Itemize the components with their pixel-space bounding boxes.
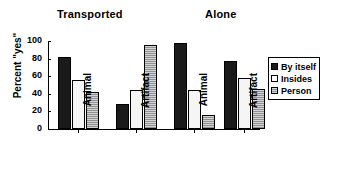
bar-1-0 — [116, 104, 129, 129]
legend-label-0: By itself — [281, 62, 316, 72]
legend-item-1: Insides — [271, 73, 316, 84]
x-axis-line — [48, 129, 260, 130]
bar-0-0 — [58, 57, 71, 129]
x-category-label-2: Animal — [198, 73, 209, 133]
plot-area: 020406080100 — [48, 41, 260, 129]
legend-swatch-icon-1 — [271, 75, 278, 82]
y-tick-mark — [48, 76, 51, 77]
y-tick-label: 80 — [32, 53, 42, 64]
x-tick-mark-3 — [244, 129, 245, 133]
y-tick-label: 40 — [32, 88, 42, 99]
y-tick-mark — [48, 111, 51, 112]
y-tick-label: 100 — [27, 35, 42, 46]
y-tick-mark — [48, 59, 51, 60]
y-tick-mark — [48, 41, 51, 42]
panel-title-transported: Transported — [57, 8, 123, 20]
x-tick-mark-0 — [78, 129, 79, 133]
panel-title-alone: Alone — [205, 8, 237, 20]
legend-swatch-icon-2 — [271, 87, 278, 94]
legend-swatch-icon-0 — [271, 63, 278, 70]
legend-label-1: Insides — [281, 74, 312, 84]
y-tick-mark — [48, 129, 51, 130]
bar-3-0 — [224, 61, 237, 129]
bar-2-0 — [174, 43, 187, 129]
chart-legend: By itselfInsidesPerson — [268, 57, 320, 100]
y-axis-label: Percent "yes" — [12, 26, 23, 106]
x-tick-mark-2 — [194, 129, 195, 133]
legend-label-2: Person — [281, 86, 312, 96]
y-tick-label: 60 — [32, 70, 42, 81]
x-tick-mark-1 — [136, 129, 137, 133]
legend-item-2: Person — [271, 85, 316, 96]
y-tick-label: 0 — [37, 123, 42, 134]
x-category-label-0: Animal — [82, 73, 93, 133]
x-category-label-1: Artifact — [140, 73, 151, 133]
x-category-label-3: Artifact — [248, 73, 259, 133]
y-tick-label: 20 — [32, 105, 42, 116]
legend-item-0: By itself — [271, 61, 316, 72]
y-tick-mark — [48, 94, 51, 95]
y-axis-line — [48, 41, 49, 129]
bar-chart-figure: Transported Alone Percent "yes" 02040608… — [0, 0, 340, 175]
